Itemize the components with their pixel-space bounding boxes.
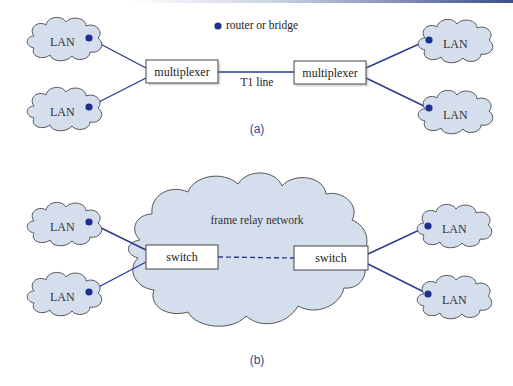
router-dot-icon — [85, 288, 92, 295]
router-dot-icon — [425, 104, 432, 111]
svg-text:switch: switch — [315, 251, 346, 265]
router-dot-icon — [425, 36, 432, 43]
svg-text:LAN: LAN — [50, 290, 75, 304]
router-dot-icon — [85, 103, 92, 110]
diagram-a: LAN LAN LAN LAN multiplexer multiplexer — [27, 17, 492, 136]
svg-text:LAN: LAN — [443, 108, 468, 122]
frame-relay-label: frame relay network — [210, 214, 303, 227]
router-dot-icon — [214, 22, 221, 29]
legend: router or bridge — [214, 19, 298, 32]
right-multiplexer: multiplexer — [294, 61, 369, 87]
svg-text:LAN: LAN — [442, 222, 467, 236]
legend-label: router or bridge — [226, 19, 298, 32]
svg-text:LAN: LAN — [50, 105, 75, 119]
network-diagram: router or bridge LAN LAN LAN LAN — [0, 0, 513, 386]
caption-b: (b) — [250, 353, 265, 367]
left-switch: switch — [146, 245, 218, 269]
diagram-b: frame relay network LAN LAN LAN LAN — [27, 173, 491, 367]
svg-text:LAN: LAN — [443, 37, 468, 51]
svg-text:LAN: LAN — [50, 35, 75, 49]
left-multiplexer: multiplexer — [146, 60, 221, 86]
svg-text:LAN: LAN — [442, 293, 467, 307]
t1-line-label: T1 line — [241, 76, 274, 88]
svg-text:switch: switch — [166, 250, 197, 264]
router-dot-icon — [85, 218, 92, 225]
router-dot-icon — [424, 290, 431, 297]
right-switch: switch — [294, 246, 368, 270]
svg-text:LAN: LAN — [50, 220, 75, 234]
router-dot-icon — [424, 222, 431, 229]
router-dot-icon — [85, 34, 92, 41]
svg-text:multiplexer: multiplexer — [154, 65, 209, 79]
lan-cloud: LAN — [418, 90, 492, 133]
svg-text:multiplexer: multiplexer — [302, 66, 357, 80]
caption-a: (a) — [250, 122, 265, 136]
